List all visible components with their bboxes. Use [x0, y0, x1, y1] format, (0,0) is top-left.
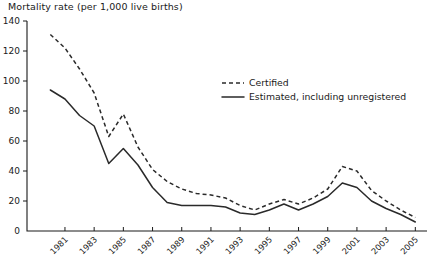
x-tick-label: 2003 — [369, 234, 391, 256]
chart-canvas: 020406080100120140 198119831985198719891… — [0, 0, 435, 266]
plot-series — [50, 35, 415, 223]
x-tick-label: 1993 — [223, 234, 245, 256]
axis-lines — [27, 21, 427, 231]
y-tick-label: 140 — [3, 16, 20, 26]
y-tick-label: 80 — [9, 106, 21, 116]
mortality-rate-line-chart: Mortality rate (per 1,000 live births) 0… — [0, 0, 435, 266]
x-tick-label: 1981 — [48, 234, 70, 256]
chart-legend: CertifiedEstimated, including unregister… — [222, 77, 406, 102]
y-tick-label: 100 — [3, 76, 20, 86]
y-axis-ticks: 020406080100120140 — [3, 16, 27, 236]
x-tick-label: 1999 — [311, 234, 333, 256]
y-tick-label: 40 — [9, 166, 21, 176]
x-tick-label: 2001 — [340, 234, 362, 256]
y-tick-label: 0 — [14, 226, 20, 236]
x-tick-label: 1995 — [252, 234, 274, 256]
x-tick-label: 1997 — [281, 234, 303, 256]
y-tick-label: 20 — [9, 196, 21, 206]
x-tick-label: 1987 — [135, 234, 157, 256]
x-tick-label: 1989 — [165, 234, 187, 256]
x-tick-label: 1985 — [106, 234, 128, 256]
legend-label-1: Certified — [249, 77, 289, 88]
x-tick-label: 1983 — [77, 234, 99, 256]
x-tick-label: 2005 — [398, 234, 420, 256]
legend-label-2: Estimated, including unregistered — [249, 91, 406, 102]
y-tick-label: 60 — [9, 136, 21, 146]
y-tick-label: 120 — [3, 46, 20, 56]
x-tick-label: 1991 — [194, 234, 216, 256]
